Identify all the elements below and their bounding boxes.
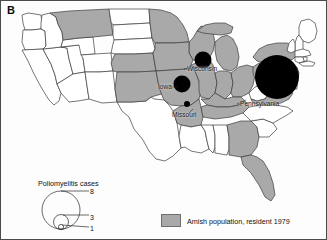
state-massachusetts — [295, 49, 311, 57]
figure-panel-b: B Wisconsin Iowa Missouri Pennsylvania P… — [0, 0, 327, 240]
state-florida — [241, 155, 275, 201]
state-kansas — [111, 53, 156, 72]
state-texas — [117, 97, 181, 161]
state-newmexico — [85, 71, 117, 103]
state-alabama — [213, 125, 229, 155]
map-label-wisconsin: Wisconsin — [187, 65, 217, 73]
map-label-iowa: Iowa — [158, 83, 172, 91]
legend-value-3: 3 — [90, 214, 94, 222]
legend-cases-title: Poliomyelitis cases — [38, 179, 99, 188]
legend-value-8: 8 — [90, 188, 94, 196]
case-circle-iowa — [174, 76, 191, 93]
state-washington — [22, 13, 42, 30]
state-colorado — [81, 53, 113, 72]
state-southdakota — [113, 23, 152, 40]
state-vermont — [287, 39, 295, 53]
state-nebraska — [111, 38, 155, 54]
state-georgia — [227, 121, 259, 157]
state-oregon — [22, 29, 46, 50]
case-circle-missouri — [184, 101, 190, 107]
map-label-missouri: Missouri — [172, 111, 197, 119]
case-circle-pennsylvania — [255, 55, 299, 99]
legend-amish-swatch — [161, 214, 181, 227]
legend-amish-label: Amish population, resident 1979 — [187, 217, 290, 226]
us-choropleth-map — [1, 1, 327, 240]
state-michigan-lp — [215, 35, 239, 71]
legend-value-1: 1 — [90, 225, 94, 233]
legend-circle-3 — [54, 215, 69, 230]
legend-proportional-circles — [42, 191, 89, 230]
legend-circle-8 — [42, 191, 80, 229]
state-minnesota — [149, 9, 189, 43]
state-northdakota — [109, 9, 150, 25]
legend-tick-1 — [62, 225, 89, 227]
panel-label: B — [7, 4, 15, 16]
state-rhodeisland — [303, 57, 307, 61]
map-label-pennsylvania: Pennsylvania — [240, 100, 279, 108]
